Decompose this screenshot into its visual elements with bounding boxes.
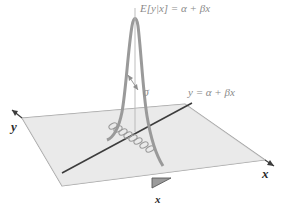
regression-line-label: y = α + βx <box>187 86 235 98</box>
y-axis <box>12 110 22 118</box>
sigma-label: σ <box>143 85 150 99</box>
regression-normal-distribution-figure: y x y = α + βx E[y|x] = α + βx σ x <box>0 0 281 209</box>
axis-x-label: x <box>261 166 269 181</box>
expected-value-label: E[y|x] = α + βx <box>139 2 210 14</box>
sigma-arrow <box>128 75 138 90</box>
axis-y-label: y <box>9 119 17 134</box>
xy-plane-shading <box>22 104 265 186</box>
x-pointer-label: x <box>154 193 161 205</box>
x-pointer-triangle <box>152 178 171 188</box>
